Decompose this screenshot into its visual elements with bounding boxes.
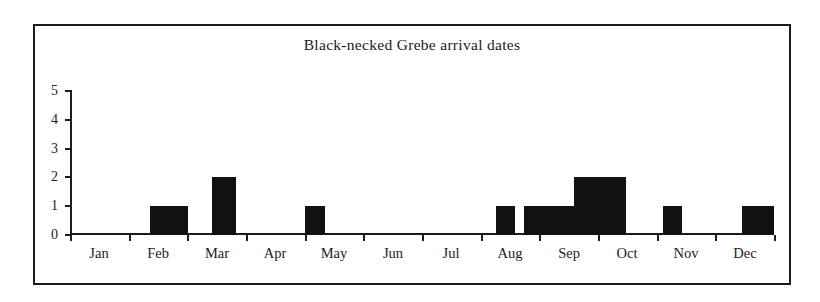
- x-tick-2: [187, 235, 189, 241]
- x-tick-0: [70, 235, 72, 241]
- bar-may-2: [305, 206, 325, 235]
- x-axis-label-aug: Aug: [498, 245, 523, 262]
- x-tick-6: [422, 235, 424, 241]
- y-axis-label-1: 1: [51, 199, 58, 213]
- x-tick-3: [246, 235, 248, 241]
- x-axis-label-jul: Jul: [443, 245, 460, 262]
- y-axis-label-5: 5: [51, 84, 58, 98]
- x-tick-10: [657, 235, 659, 241]
- x-axis-label-may: May: [321, 245, 348, 262]
- x-tick-9: [598, 235, 600, 241]
- x-axis-label-dec: Dec: [733, 245, 756, 262]
- bar-feb-0: [150, 206, 188, 235]
- x-tick-5: [363, 235, 365, 241]
- chart-title: Black-necked Grebe arrival dates: [35, 36, 789, 54]
- x-axis-label-jan: Jan: [89, 245, 108, 262]
- x-tick-7: [481, 235, 483, 241]
- y-axis-label-4: 4: [51, 113, 58, 127]
- bar-aug-3: [496, 206, 515, 235]
- x-axis-label-feb: Feb: [147, 245, 169, 262]
- x-tick-8: [539, 235, 541, 241]
- x-axis-label-jun: Jun: [383, 245, 403, 262]
- figure-border: Black-necked Grebe arrival dates 012345 …: [33, 24, 791, 285]
- y-axis-label-0: 0: [51, 228, 58, 242]
- x-axis-label-sep: Sep: [558, 245, 580, 262]
- x-axis-label-nov: Nov: [674, 245, 699, 262]
- bar-mar-1: [212, 177, 236, 235]
- x-tick-4: [305, 235, 307, 241]
- y-axis-label-3: 3: [51, 142, 58, 156]
- x-tick-11: [715, 235, 717, 241]
- x-axis-label-mar: Mar: [205, 245, 229, 262]
- x-tick-12: [774, 235, 776, 241]
- x-tick-1: [129, 235, 131, 241]
- plot-area: 012345 JanFebMarAprMayJunJulAugSepOctNov…: [70, 90, 774, 241]
- x-axis-label-apr: Apr: [264, 245, 287, 262]
- x-axis-label-oct: Oct: [617, 245, 638, 262]
- bar-series: [70, 90, 774, 235]
- y-axis-label-2: 2: [51, 170, 58, 184]
- bar-sep-5: [574, 177, 626, 235]
- bar-dec-7: [742, 206, 774, 235]
- bar-oct-6: [663, 206, 682, 235]
- bar-sep-4: [524, 206, 574, 235]
